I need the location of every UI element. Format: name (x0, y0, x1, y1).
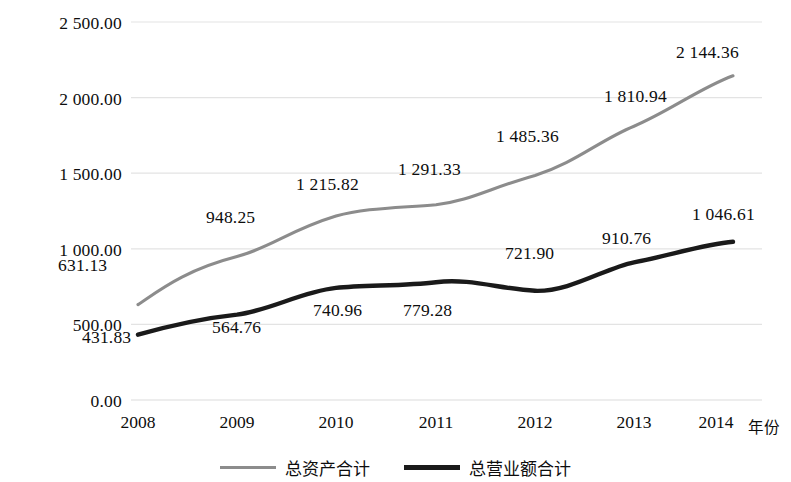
data-label-revenue-2014: 1 046.61 (692, 204, 755, 225)
legend-line-icon-revenue (404, 465, 460, 470)
legend-item-assets[interactable]: 总资产合计 (220, 455, 370, 480)
data-label-revenue-2010: 740.96 (313, 300, 362, 321)
chart-figure: 2 500.00 2 000.00 1 500.00 1 000.00 500.… (0, 0, 791, 482)
x-axis-title: 年份 (748, 415, 780, 437)
chart-legend: 总资产合计 总营业额合计 (0, 455, 791, 480)
xtick-label-2013: 2013 (594, 412, 674, 433)
data-label-revenue-2009: 564.76 (212, 317, 261, 338)
ytick-label-1500: 1 500.00 (0, 164, 122, 185)
data-label-assets-2010: 1 215.82 (296, 174, 359, 195)
ytick-label-2000: 2 000.00 (0, 89, 122, 110)
xtick-label-2014: 2014 (686, 412, 746, 433)
legend-label-revenue: 总营业额合计 (469, 455, 571, 480)
data-label-revenue-2011: 779.28 (403, 300, 452, 321)
data-label-assets-2013: 1 810.94 (604, 86, 667, 107)
xtick-label-2011: 2011 (396, 412, 476, 433)
data-label-assets-2012: 1 485.36 (496, 126, 559, 147)
ytick-label-2500: 2 500.00 (0, 13, 122, 34)
xtick-label-2010: 2010 (296, 412, 376, 433)
xtick-label-2012: 2012 (495, 412, 575, 433)
data-label-revenue-2012: 721.90 (505, 243, 554, 264)
xtick-label-2008: 2008 (98, 412, 178, 433)
ytick-label-0: 0.00 (0, 391, 122, 412)
legend-item-revenue[interactable]: 总营业额合计 (404, 455, 571, 480)
series-line-assets (138, 76, 733, 305)
xtick-label-2009: 2009 (197, 412, 277, 433)
data-label-assets-2009: 948.25 (206, 207, 255, 228)
data-label-revenue-2013: 910.76 (602, 228, 651, 249)
legend-label-assets: 总资产合计 (285, 455, 370, 480)
data-label-assets-2008: 631.13 (58, 255, 107, 276)
data-label-revenue-2008: 431.83 (82, 327, 131, 348)
data-label-assets-2014: 2 144.36 (676, 42, 739, 63)
legend-line-icon-assets (220, 466, 276, 469)
data-label-assets-2011: 1 291.33 (398, 159, 461, 180)
